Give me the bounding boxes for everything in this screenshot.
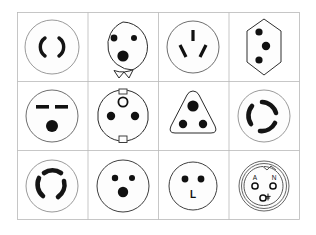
cell-12-label-n: N	[272, 174, 277, 181]
cell-12-contact-earth	[260, 195, 266, 201]
cell-5-socket	[26, 90, 78, 142]
cell-6-ring-top	[118, 97, 127, 106]
cell-12-label-a: A	[253, 174, 258, 181]
cell-10-hole-earth	[118, 187, 128, 197]
cell-1-socket	[25, 20, 79, 74]
cell-10-hole-left	[112, 175, 118, 181]
cell-7-hole-right	[199, 120, 207, 128]
cell-2-hole-left	[111, 35, 118, 42]
cell-12-contact-a	[252, 183, 258, 189]
cell-12-socket: A N	[239, 161, 289, 211]
cell-11-socket: L	[169, 162, 217, 210]
cell-6-hole-left	[107, 112, 115, 120]
cell-4-hole-top	[255, 28, 262, 35]
cell-11-hole-left	[182, 176, 189, 183]
cell-5-slot-right	[55, 105, 68, 109]
cell-2-hole-earth	[117, 50, 128, 61]
cell-10-socket	[97, 160, 149, 212]
cell-10-hole-right	[129, 175, 135, 181]
cell-7-hole-top	[187, 100, 198, 111]
cell-12-contact-n	[270, 183, 276, 189]
cell-6-socket	[98, 89, 148, 143]
plug-socket-diagram-figure: L A N	[0, 0, 316, 235]
cell-5-hole-earth	[46, 120, 58, 132]
cell-6-earth-tab-top	[119, 89, 127, 94]
cell-11-hole-right	[198, 176, 205, 183]
cell-6-earth-tab-bottom	[119, 136, 127, 143]
cell-5-slot-left	[36, 105, 49, 109]
cell-11-label-l: L	[190, 189, 196, 200]
cell-4-hole-bottom	[255, 56, 262, 63]
cell-7-hole-left	[179, 120, 187, 128]
cell-6-hole-right	[131, 112, 139, 120]
cell-4-hole-middle	[262, 42, 270, 50]
socket-grid: L A N	[0, 0, 316, 235]
cell-2-hole-right	[131, 35, 137, 41]
cell-9-socket	[26, 160, 78, 212]
cell-8-socket	[238, 90, 290, 142]
cell-12-ring-outer	[239, 161, 289, 211]
cell-3-socket	[167, 21, 219, 73]
